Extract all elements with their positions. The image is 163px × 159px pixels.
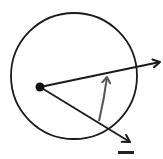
circle xyxy=(11,13,137,139)
angle-arrow-icon xyxy=(99,77,107,121)
angle-diagram xyxy=(0,0,163,159)
center-point xyxy=(36,83,45,92)
initial-ray xyxy=(40,62,160,87)
terminal-ray xyxy=(40,87,130,142)
cutoff-text-fragment xyxy=(118,151,134,154)
